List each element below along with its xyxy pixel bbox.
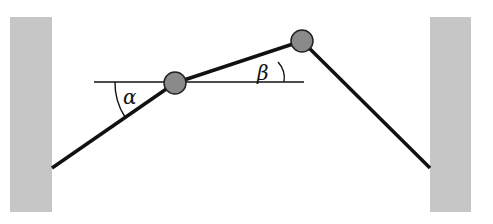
rope-diagram: α β (0, 0, 493, 224)
ball-right (291, 30, 313, 52)
alpha-label: α (123, 85, 137, 109)
left-wall (10, 17, 52, 212)
ball-left (164, 72, 186, 94)
beta-angle-arc (278, 62, 284, 82)
right-wall (430, 17, 471, 212)
rope-segment-right (302, 41, 430, 168)
rope-segment-left (52, 83, 175, 168)
rope-segment-middle (175, 41, 302, 83)
beta-label: β (256, 61, 269, 85)
